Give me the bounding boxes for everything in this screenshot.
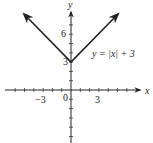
x-tick-label-3: 3 [95, 94, 100, 105]
absolute-value-graph: x y −3 0 3 6 3 y = |x| + 3 [0, 0, 153, 143]
y-tick-label-6: 6 [61, 28, 66, 39]
y-tick-label-3: 3 [63, 56, 68, 67]
y-axis-label: y [67, 0, 73, 10]
x-axis-label: x [144, 85, 150, 96]
equation-label: y = |x| + 3 [91, 48, 135, 59]
origin-label: 0 [63, 92, 68, 103]
x-tick-label-neg3: −3 [35, 94, 46, 105]
